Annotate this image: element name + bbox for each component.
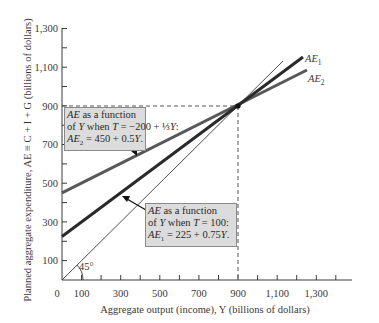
x-tick-100: 100: [74, 288, 90, 299]
x-tick-700: 700: [191, 288, 207, 299]
y-tick-900: 900: [42, 101, 58, 112]
annotation-ae2-line3: AE2 = 450 + 0.5Y.: [67, 133, 143, 149]
y-axis-title: Planned aggregate expenditure, AE ≡ C + …: [22, 18, 34, 302]
x-tick-labels: 0 100 300 500 700 900 1,100 1,300: [54, 288, 328, 299]
annotation-ae1-line2: of Y when T = 100:: [148, 217, 234, 229]
x-tick-900: 900: [230, 288, 246, 299]
x-tick-1100: 1,100: [265, 288, 289, 299]
x-tick-500: 500: [152, 288, 168, 299]
arrow-to-ae1: [122, 196, 146, 210]
y-tick-100: 100: [42, 255, 58, 266]
label-ae2: AE2: [307, 73, 325, 87]
y-tick-1100: 1,100: [34, 62, 58, 73]
x-tick-0: 0: [54, 288, 59, 299]
x-tick-300: 300: [113, 288, 129, 299]
annotation-ae1-line3: AE1 = 225 + 0.75Y.: [148, 229, 234, 245]
annotation-box-ae1: AE as a function of Y when T = 100: AE1 …: [145, 203, 237, 247]
y-tick-700: 700: [42, 139, 58, 150]
x-tick-1300: 1,300: [304, 288, 328, 299]
y-tick-labels: 1,300 1,100 900 700 500 300 100: [34, 23, 58, 266]
label-ae1: AE1: [304, 53, 322, 67]
equilibrium-point: [235, 103, 240, 108]
y-tick-1300: 1,300: [34, 23, 58, 34]
angle-label-45: 45°: [79, 261, 94, 272]
y-tick-500: 500: [42, 178, 58, 189]
annotation-ae1-line1: AE as a function: [148, 205, 234, 217]
line-45-degree: [62, 61, 283, 280]
x-ticks: [82, 275, 336, 280]
y-tick-300: 300: [42, 217, 58, 228]
chart-canvas: 1,300 1,100 900 700 500 300 100 0 100 30…: [0, 0, 379, 323]
annotation-box-ae2: AE as a function of Y when T = −200 + ⅓Y…: [64, 107, 146, 151]
annotation-ae2-line1: AE as a function: [67, 109, 143, 121]
x-axis-title: Aggregate output (income), Y (billions o…: [100, 304, 310, 316]
annotation-ae2-line2: of Y when T = −200 + ⅓Y:: [67, 121, 143, 133]
